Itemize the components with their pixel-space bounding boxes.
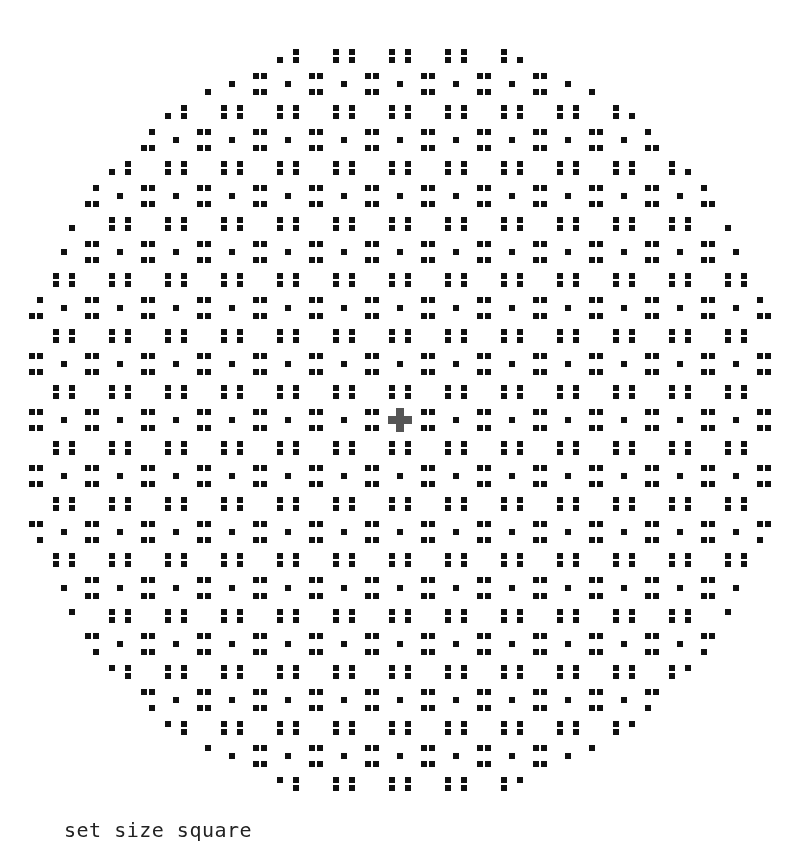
command-caption: set size square	[64, 818, 252, 841]
pattern-canvas	[0, 0, 798, 841]
pixel-disc-pattern	[0, 0, 798, 841]
